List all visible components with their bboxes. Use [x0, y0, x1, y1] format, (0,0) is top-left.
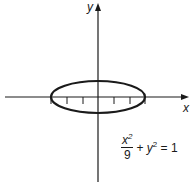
y-axis-arrow-icon	[95, 3, 101, 11]
y-axis-label: y	[87, 1, 93, 13]
x-axis-label: x	[183, 102, 189, 114]
fraction-denominator: 9	[124, 149, 131, 161]
equation-fraction: x2 9	[121, 134, 133, 161]
fraction-numerator: x2	[121, 134, 133, 146]
x-axis-arrow-icon	[181, 94, 189, 100]
equation-rhs: 1	[171, 141, 178, 155]
ellipse-equation: x2 9 + y2 = 1	[121, 134, 178, 161]
term2-exponent: 2	[153, 140, 157, 149]
equation-remainder: + y2 = 1	[136, 141, 177, 155]
equals-sign: =	[161, 141, 168, 155]
numerator-exponent: 2	[128, 132, 132, 141]
plus-sign: +	[136, 141, 143, 155]
